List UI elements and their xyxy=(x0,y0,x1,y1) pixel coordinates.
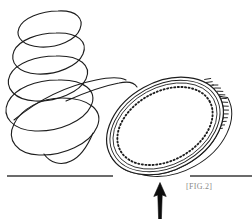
figure-caption: [FIG.2] xyxy=(186,182,212,191)
patent-figure: [FIG.2] xyxy=(0,0,252,219)
upward-force-arrow xyxy=(154,183,166,220)
spiral-loop-1 xyxy=(18,11,81,47)
spiral-loop-2 xyxy=(13,33,85,74)
coin-disc xyxy=(89,54,248,199)
spiral-tail xyxy=(44,133,93,163)
arrow-head-and-shaft xyxy=(154,183,166,220)
figure-drawing-canvas xyxy=(0,0,252,219)
